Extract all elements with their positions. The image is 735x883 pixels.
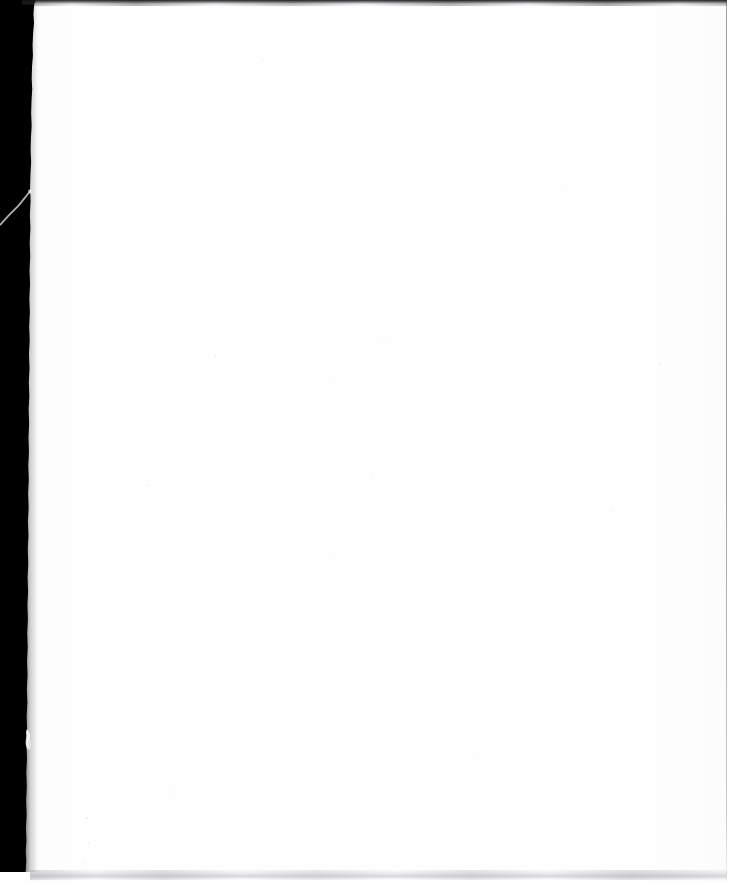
page-body — [0, 0, 735, 883]
scanned-page — [0, 0, 735, 883]
